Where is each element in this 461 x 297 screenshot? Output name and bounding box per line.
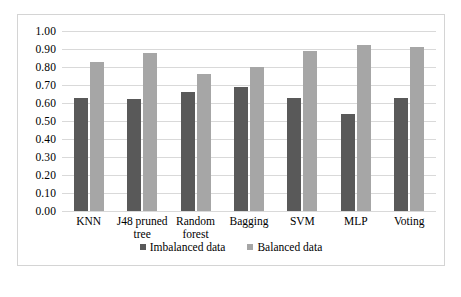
bar-group [222, 31, 275, 211]
plot-area [62, 31, 436, 211]
bar-imbalanced[interactable] [181, 92, 195, 211]
legend-entry[interactable]: Imbalanced data [140, 241, 226, 253]
bar-group [329, 31, 382, 211]
square-marker-light-icon [247, 244, 253, 250]
bar-group [115, 31, 168, 211]
bar-group [62, 31, 115, 211]
legend-label: Imbalanced data [150, 241, 226, 253]
gridline [62, 211, 436, 212]
bar-imbalanced[interactable] [74, 98, 88, 211]
bar-imbalanced[interactable] [394, 98, 408, 211]
y-axis-tick-label: 0.10 [35, 187, 56, 199]
bar-balanced[interactable] [357, 45, 371, 211]
plot-region: 1.000.900.800.700.600.500.400.300.200.10… [18, 15, 444, 265]
y-axis-tick-label: 1.00 [35, 25, 56, 37]
y-axis-tick-label: 0.50 [35, 115, 56, 127]
legend-label: Balanced data [257, 241, 322, 253]
y-axis: 1.000.900.800.700.600.500.400.300.200.10… [18, 15, 60, 265]
bar-balanced[interactable] [410, 47, 424, 211]
bar-imbalanced[interactable] [127, 99, 141, 211]
square-marker-dark-icon [140, 244, 146, 250]
bar-balanced[interactable] [250, 67, 264, 211]
bar-group [383, 31, 436, 211]
y-axis-tick-label: 0.00 [35, 205, 56, 217]
bar-group [276, 31, 329, 211]
y-axis-tick-label: 0.40 [35, 133, 56, 145]
bar-group [169, 31, 222, 211]
y-axis-tick-label: 0.20 [35, 169, 56, 181]
bar-balanced[interactable] [143, 53, 157, 211]
y-axis-tick-label: 0.30 [35, 151, 56, 163]
y-axis-tick-label: 0.60 [35, 97, 56, 109]
y-axis-tick-label: 0.90 [35, 43, 56, 55]
bar-balanced[interactable] [197, 74, 211, 211]
bar-imbalanced[interactable] [234, 87, 248, 211]
chart-legend: Imbalanced dataBalanced data [18, 241, 444, 253]
y-axis-tick-label: 0.80 [35, 61, 56, 73]
bar-balanced[interactable] [90, 62, 104, 211]
bar-chart-figure: 1.000.900.800.700.600.500.400.300.200.10… [17, 14, 445, 266]
legend-entry[interactable]: Balanced data [247, 241, 322, 253]
bar-balanced[interactable] [303, 51, 317, 211]
y-axis-tick-label: 0.70 [35, 79, 56, 91]
bar-imbalanced[interactable] [287, 98, 301, 211]
bar-imbalanced[interactable] [341, 114, 355, 211]
bars-layer [62, 31, 436, 211]
